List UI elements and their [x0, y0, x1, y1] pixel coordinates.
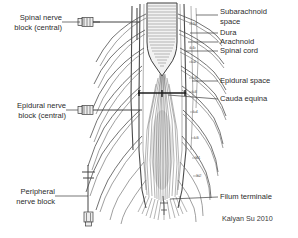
dura-label: Dura	[220, 28, 237, 37]
spinal-needle[interactable]	[78, 8, 140, 40]
peripheral-nerve-block-label-line2: nerve block	[16, 197, 55, 206]
arachnoid-label: Arachnoid	[220, 37, 254, 46]
filum-terminale-label: Filum terminale	[220, 192, 272, 201]
vertebral-label-l3b: L3	[192, 89, 197, 94]
spinal-nerve-block-label-line2: block (central)	[14, 23, 62, 32]
peripheral-nerve-block-label-line1: Peripheral	[20, 187, 55, 196]
vertebral-label-s2: S2	[196, 173, 202, 178]
vertebral-label-l1: L1	[190, 45, 195, 50]
epidural-needle[interactable]	[78, 106, 142, 115]
vertebral-label-l3a: L3	[192, 75, 197, 80]
cauda-equina-label: Cauda equina	[220, 94, 268, 103]
subarachnoid-space-label-line1: Subarachnoid	[220, 7, 267, 16]
vertebral-label-t12: T12	[190, 21, 198, 26]
epidural-nerve-block-label-line2: block (central)	[18, 111, 66, 120]
credit-text: Kalyan Su 2010	[222, 214, 273, 223]
left-annotation-labels: Spinal nerve block (central) Epidural ne…	[14, 13, 66, 206]
figure-canvas: T12 L1 L2 L3 L3 L4 L5 S1 S2 Spinal nerve…	[0, 0, 298, 238]
nerve-roots-left	[86, 14, 146, 224]
subarachnoid-space-label-line2: space	[220, 17, 240, 26]
vertebral-label-l2: L2	[191, 59, 196, 64]
right-annotation-labels: Subarachnoid space Dura Arachnoid Spinal…	[220, 7, 272, 201]
vertebral-label-l4: L4	[193, 109, 198, 114]
spinal-nerve-block-label-line1: Spinal nerve	[20, 13, 62, 22]
vertebral-label-s1: S1	[195, 155, 201, 160]
epidural-space-label: Epidural space	[220, 76, 270, 85]
epidural-nerve-block-label-line1: Epidural nerve	[17, 101, 66, 110]
spinal-cord-conus	[147, 3, 177, 76]
vertebral-label-l5: L5	[194, 135, 199, 140]
peripheral-needle[interactable]	[82, 165, 95, 226]
vertebral-level-labels: T12 L1 L2 L3 L3 L4 L5 S1 S2	[190, 21, 202, 178]
spinal-cord-label: Spinal cord	[220, 46, 258, 55]
